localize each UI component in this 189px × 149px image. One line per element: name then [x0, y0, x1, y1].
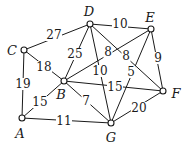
- edge-weight-d-b: 25: [67, 47, 82, 61]
- edge-weight-d-e: 10: [112, 17, 127, 31]
- edge-weight-b-g: 7: [82, 94, 90, 108]
- node-e: [148, 26, 154, 32]
- edge-weights-layer: 2710182510885919157152011: [15, 17, 163, 128]
- edge-weight-d-f: 8: [122, 49, 130, 63]
- edge-weight-c-b: 18: [36, 60, 51, 74]
- node-label-b: B: [55, 87, 66, 102]
- edge-weight-b-f: 15: [107, 80, 122, 94]
- edge-weight-e-b: 8: [104, 45, 112, 59]
- node-label-g: G: [106, 130, 116, 145]
- edge-weight-g-f: 20: [131, 101, 146, 115]
- node-b: [61, 78, 67, 84]
- edge-weight-e-f: 9: [154, 51, 162, 65]
- node-a: [19, 115, 25, 121]
- node-label-f: F: [170, 86, 181, 101]
- node-g: [108, 120, 114, 126]
- node-label-e: E: [144, 10, 155, 25]
- edge-weight-a-g: 11: [56, 114, 71, 128]
- node-label-d: D: [83, 4, 95, 19]
- node-d: [87, 21, 93, 27]
- node-c: [21, 47, 27, 53]
- node-label-c: C: [7, 43, 17, 58]
- node-f: [160, 88, 166, 94]
- edge-weight-c-a: 19: [15, 77, 30, 91]
- edge-weight-c-d: 27: [46, 28, 61, 42]
- edge-weight-e-g: 5: [127, 65, 135, 79]
- edge-weight-a-b: 15: [32, 95, 47, 109]
- node-label-a: A: [14, 126, 24, 141]
- edge-weight-d-g: 10: [92, 64, 107, 78]
- weighted-graph-diagram: 2710182510885919157152011 ABCDEFG: [0, 0, 189, 149]
